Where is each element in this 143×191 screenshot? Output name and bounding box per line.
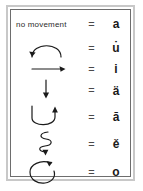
equals-sign-4: = — [81, 85, 102, 96]
equals-sign-1: = — [81, 19, 102, 30]
legend-row-arc-arrow: = u̇ — [11, 36, 130, 60]
legend-row-right-arrow: = i — [11, 59, 130, 79]
letter-e-caron: ě — [102, 138, 130, 150]
legend-row-loop-arrow: = o — [11, 157, 130, 187]
symbol-cell-loop-arrow — [11, 157, 81, 187]
symbol-cell-right-arrow — [11, 59, 81, 79]
equals-sign-7: = — [81, 167, 102, 178]
equals-sign-2: = — [81, 43, 102, 54]
equals-sign-5: = — [81, 112, 102, 123]
symbol-cell-arc-arrow — [11, 36, 81, 60]
equals-sign-6: = — [81, 139, 102, 150]
legend-row-down-arrow: = ä — [11, 78, 130, 103]
letter-i: i — [102, 63, 130, 75]
movement-to-vowel-legend: no movement = a = u̇ = — [0, 0, 143, 191]
loop-circle-arrow-icon — [11, 157, 81, 187]
legend-row-no-movement: no movement = a — [11, 12, 130, 36]
symbol-cell-u-turn-arrow — [11, 103, 81, 131]
legend-row-u-turn-arrow: = ā — [11, 103, 130, 131]
legend-row-wavy-arrow: = ě — [11, 130, 130, 158]
u-turn-up-arrow-icon — [11, 103, 81, 131]
no-movement-label: no movement — [16, 20, 67, 29]
letter-o: o — [102, 166, 130, 178]
symbol-cell-no-movement: no movement — [11, 12, 81, 36]
letter-a: a — [102, 18, 130, 30]
wavy-down-arrow-icon — [11, 130, 81, 158]
down-arrow-icon — [11, 78, 81, 103]
symbol-cell-down-arrow — [11, 78, 81, 103]
letter-a-macron: ā — [102, 111, 130, 123]
legend-rows: no movement = a = u̇ = — [11, 10, 130, 176]
symbol-cell-wavy-arrow — [11, 130, 81, 158]
equals-sign-3: = — [81, 64, 102, 75]
right-arrow-icon — [11, 59, 81, 79]
arc-counterclockwise-arrow-icon — [11, 36, 81, 60]
letter-u-dot-above: u̇ — [102, 42, 130, 54]
letter-a-diaeresis: ä — [102, 85, 130, 97]
